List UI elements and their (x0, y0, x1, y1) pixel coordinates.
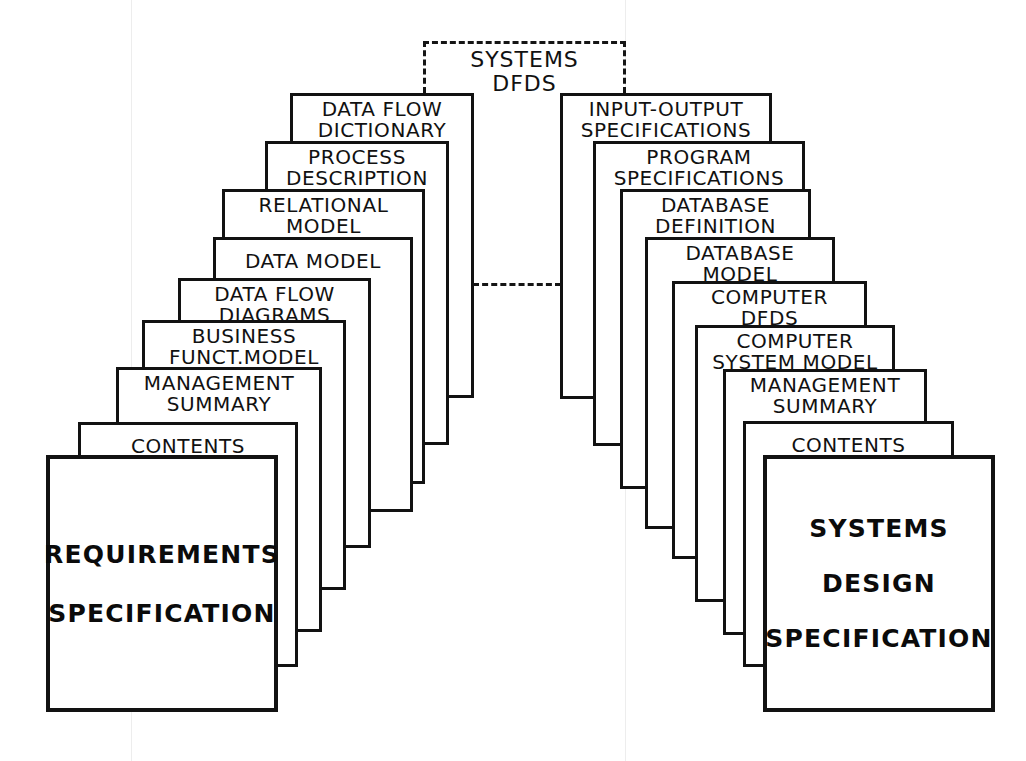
right-sheet-label: INPUT-OUTPUT SPECIFICATIONS (563, 96, 769, 141)
left-cover-requirements-specification[interactable]: REQUIREMENTS SPECIFICATION (46, 455, 278, 712)
right-sheet-label: DATABASE DEFINITION (623, 192, 808, 237)
systems-dfds-dashed-box[interactable]: SYSTEMS DFDS (423, 41, 626, 93)
right-sheet-label: DATABASE MODEL (648, 240, 832, 285)
left-sheet-label: CONTENTS (81, 425, 295, 457)
left-sheet-label: RELATIONAL MODEL (225, 192, 422, 237)
stacks-dashed-connector (473, 283, 561, 286)
right-sheet-label: CONTENTS (746, 424, 951, 456)
right-sheet-label: COMPUTER SYSTEM MODEL (698, 328, 892, 373)
right-cover-title-line3: SPECIFICATION (765, 626, 992, 651)
right-sheet-label: PROGRAM SPECIFICATIONS (596, 144, 802, 189)
right-cover-title-line1: SYSTEMS (809, 516, 949, 541)
right-sheet-label: COMPUTER DFDS (675, 284, 864, 329)
left-sheet-label: DATA MODEL (216, 240, 410, 272)
left-cover-title-line1: REQUIREMENTS (44, 542, 280, 567)
left-sheet-label: PROCESS DESCRIPTION (268, 144, 446, 189)
left-cover-title-line2: SPECIFICATION (48, 601, 275, 626)
right-cover-title-line2: DESIGN (822, 571, 936, 596)
right-cover-systems-design-specification[interactable]: SYSTEMS DESIGN SPECIFICATION (763, 455, 995, 712)
diagram-canvas: DATA FLOW DICTIONARY PROCESS DESCRIPTION… (0, 0, 1026, 761)
systems-dfds-label: SYSTEMS DFDS (470, 48, 579, 96)
left-sheet-label: DATA FLOW DICTIONARY (293, 96, 471, 141)
right-sheet-label: MANAGEMENT SUMMARY (726, 372, 924, 417)
left-sheet-label: BUSINESS FUNCT.MODEL (145, 323, 343, 368)
left-sheet-label: MANAGEMENT SUMMARY (119, 370, 319, 415)
